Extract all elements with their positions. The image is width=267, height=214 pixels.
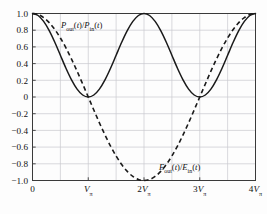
figure-container: 1.00.80.60.40.20−0.2−0.4−0.6−0.8−1.0 0Vπ… xyxy=(0,0,267,214)
y-tick-label: −0.2 xyxy=(11,109,28,119)
chart-canvas: 1.00.80.60.40.20−0.2−0.4−0.6−0.8−1.0 0Vπ… xyxy=(0,0,267,214)
y-tick-label: −1.0 xyxy=(11,176,28,186)
y-tick-label: −0.8 xyxy=(11,159,28,169)
chart-background xyxy=(0,0,267,214)
y-tick-label: 0.6 xyxy=(17,42,29,52)
x-tick-label: 0 xyxy=(30,184,35,194)
y-tick-label: −0.6 xyxy=(11,142,28,152)
y-tick-label: 0.4 xyxy=(17,59,29,69)
y-tick-label: 0.2 xyxy=(17,76,29,86)
y-tick-label: −0.4 xyxy=(11,126,28,136)
y-tick-label: 0 xyxy=(23,92,28,102)
y-tick-label: 1.0 xyxy=(17,9,29,19)
y-tick-label: 0.8 xyxy=(17,25,29,35)
